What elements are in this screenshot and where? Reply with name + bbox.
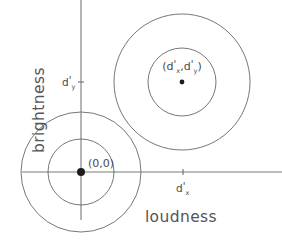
y-axis-label: brightness [30,67,48,153]
y-tick-sub: y [71,83,75,91]
x-axis-label: loudness [145,208,217,226]
figure-canvas: brightness loudness d'y d'x (0,0) (d'x,d… [0,0,282,244]
x-tick-d: d [176,182,183,194]
svg-text:d'y: d'y [62,75,75,91]
y-tick-d: d [62,76,69,88]
origin-point-marker [77,168,85,176]
origin-point-label: (0,0) [88,157,114,170]
signal-label-d1: d [167,60,174,73]
signal-point-label: (d'x,d'y) [162,59,201,76]
signal-label-d2: d [184,60,191,73]
signal-detection-figure: brightness loudness d'y d'x (0,0) (d'x,d… [0,0,282,244]
x-axis-tick-label: d'x [176,181,189,197]
svg-text:d'x: d'x [176,181,189,197]
signal-point-marker [180,80,185,85]
x-tick-sub: x [185,189,189,197]
y-axis-tick-label: d'y [62,75,75,91]
signal-label-close: ) [197,60,201,73]
svg-text:(d'x,d'y): (d'x,d'y) [162,59,201,76]
